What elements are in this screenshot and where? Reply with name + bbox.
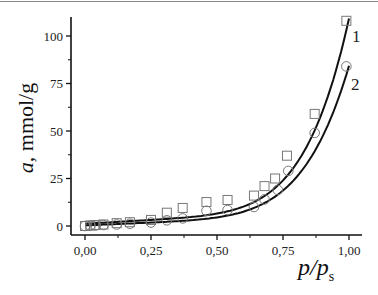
data-markers xyxy=(80,16,351,231)
square-marker xyxy=(178,203,187,212)
x-tick-label: 0,25 xyxy=(140,243,163,258)
series-label-1: 1 xyxy=(352,27,361,46)
square-marker xyxy=(223,195,232,204)
y-axis-title: a, mmol/g xyxy=(13,83,38,173)
square-marker xyxy=(260,182,269,191)
square-marker xyxy=(342,16,351,25)
circle-marker xyxy=(202,206,212,216)
square-marker xyxy=(282,151,291,160)
square-marker xyxy=(271,174,280,183)
fit-curve-2 xyxy=(85,66,349,226)
x-axis-title: p/ps xyxy=(296,254,334,284)
y-tick-label: 25 xyxy=(50,171,63,186)
y-tick-label: 100 xyxy=(44,29,64,44)
y-tick-label: 75 xyxy=(50,76,63,91)
square-marker xyxy=(249,191,258,200)
x-tick-label: 0,75 xyxy=(272,243,295,258)
x-tick-label: 1,00 xyxy=(338,243,361,258)
series-labels: 12 xyxy=(351,27,361,94)
adsorption-isotherm-chart: 02550751000,000,250,500,751,00 12 a, mmo… xyxy=(0,0,378,295)
x-tick-label: 0,00 xyxy=(74,243,97,258)
y-tick-label: 0 xyxy=(57,219,64,234)
series-label-2: 2 xyxy=(351,75,360,94)
square-marker xyxy=(310,109,319,118)
square-marker xyxy=(202,198,211,207)
x-tick-label: 0,50 xyxy=(206,243,229,258)
y-tick-label: 50 xyxy=(50,124,63,139)
fit-curves xyxy=(85,19,349,226)
fit-curve-1 xyxy=(85,19,349,224)
